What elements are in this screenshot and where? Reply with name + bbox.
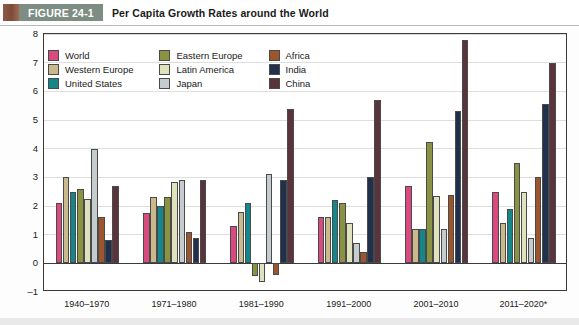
x-tick-label: 2011–2020* [499, 299, 547, 309]
legend-item: China [269, 78, 311, 89]
y-tick-label: 6 [33, 85, 38, 96]
legend-label: World [65, 50, 90, 61]
x-tick-label: 1940–1970 [64, 299, 109, 309]
bar [143, 213, 149, 263]
bar [150, 197, 156, 263]
bar [105, 240, 111, 263]
figure-container: FIGURE 24-1 Per Capita Growth Rates arou… [0, 0, 579, 325]
x-tick-label: 1981–1990 [239, 299, 284, 309]
bar [535, 177, 541, 263]
bar [318, 217, 324, 263]
legend-item: Western Europe [48, 64, 133, 75]
bar [325, 217, 331, 263]
bar [433, 196, 439, 263]
legend-swatch-icon [269, 50, 280, 61]
bar [245, 203, 251, 263]
bar [353, 243, 359, 263]
y-tick-label: 8 [33, 28, 38, 39]
bar [273, 263, 279, 274]
y-tick-label: 4 [33, 142, 38, 153]
bar [112, 186, 118, 263]
y-tick-label: 3 [33, 171, 38, 182]
bar [186, 232, 192, 264]
y-tick-label: 0 [33, 257, 38, 268]
y-tick-label: 7 [33, 56, 38, 67]
bar [500, 223, 506, 263]
y-axis: –1012345678 [0, 33, 43, 291]
bar [238, 212, 244, 264]
bar [419, 229, 425, 263]
x-tick-label: 1971–1980 [151, 299, 196, 309]
legend-swatch-icon [269, 64, 280, 75]
bar [164, 197, 170, 263]
legend-label: Africa [286, 50, 310, 61]
gridline-8 [44, 34, 566, 35]
bar [549, 63, 555, 264]
bar [374, 100, 380, 263]
legend-swatch-icon [48, 78, 59, 89]
legend-label: India [286, 64, 307, 75]
bar [230, 226, 236, 263]
bar [426, 142, 432, 264]
bar [287, 109, 293, 264]
figure-number-badge: FIGURE 24-1 [19, 4, 103, 21]
bar [514, 163, 520, 263]
bar [77, 189, 83, 264]
chart-legend: WorldEastern EuropeAfricaWestern EuropeL… [48, 50, 310, 89]
y-tick-label: 1 [33, 228, 38, 239]
legend-label: Eastern Europe [176, 50, 242, 61]
bar [441, 229, 447, 263]
bar [332, 200, 338, 263]
legend-label: Japan [176, 78, 202, 89]
figure-accent-swatch [3, 4, 19, 21]
bar [507, 209, 513, 263]
bar [266, 174, 272, 263]
bar [412, 229, 418, 263]
x-tick-label: 1991–2000 [326, 299, 371, 309]
figure-title: Per Capita Growth Rates around the World [112, 7, 329, 19]
legend-label: Western Europe [65, 64, 133, 75]
legend-swatch-icon [159, 78, 170, 89]
bar [63, 177, 69, 263]
bar [367, 177, 373, 263]
bar [492, 192, 498, 264]
legend-label: China [286, 78, 311, 89]
y-tick-label: 2 [33, 200, 38, 211]
legend-item: India [269, 64, 311, 75]
legend-label: United States [65, 78, 122, 89]
bar [70, 192, 76, 264]
legend-swatch-icon [48, 64, 59, 75]
legend-item: United States [48, 78, 133, 89]
bar [98, 217, 104, 263]
legend-swatch-icon [159, 50, 170, 61]
bar [84, 199, 90, 264]
y-tick-label: –1 [27, 286, 38, 297]
bar [200, 180, 206, 263]
legend-swatch-icon [48, 50, 59, 61]
legend-swatch-icon [269, 78, 280, 89]
bar [252, 263, 258, 276]
legend-swatch-icon [159, 64, 170, 75]
gridline-5 [44, 120, 566, 121]
bar [455, 111, 461, 263]
bar [346, 223, 352, 263]
gridline-4 [44, 148, 566, 149]
page-bottom-strip [0, 318, 579, 325]
legend-item: Africa [269, 50, 311, 61]
y-tick-label: 5 [33, 114, 38, 125]
legend-item: Latin America [159, 64, 242, 75]
bar [259, 263, 265, 282]
bar [179, 180, 185, 263]
bar [339, 203, 345, 263]
x-axis: 1940–19701971–19801981–19901991–20002001… [43, 293, 567, 319]
legend-item: Eastern Europe [159, 50, 242, 61]
zero-baseline [44, 263, 566, 264]
bar [405, 186, 411, 263]
bar [280, 180, 286, 263]
bar [542, 104, 548, 263]
figure-header: FIGURE 24-1 Per Capita Growth Rates arou… [0, 0, 579, 26]
gridline-2 [44, 206, 566, 207]
bar [56, 203, 62, 263]
bar [193, 238, 199, 264]
gridline-3 [44, 177, 566, 178]
